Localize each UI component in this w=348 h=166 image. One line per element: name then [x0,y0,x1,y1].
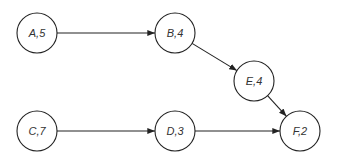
diagram-svg: A,5B,4E,4C,7D,3F,2 [0,0,348,166]
node-label: D,3 [166,125,184,137]
network-diagram: A,5B,4E,4C,7D,3F,2 [0,0,348,166]
node-b: B,4 [155,13,195,53]
edge-b-e [192,43,237,70]
node-label: B,4 [167,27,184,39]
node-label: F,2 [293,125,307,137]
node-a: A,5 [17,13,57,53]
edge-e-f [268,96,287,117]
nodes-group: A,5B,4E,4C,7D,3F,2 [17,13,320,151]
node-label: E,4 [246,75,263,87]
node-label: A,5 [28,27,46,39]
node-f: F,2 [280,111,320,151]
node-d: D,3 [155,111,195,151]
node-label: C,7 [28,125,46,137]
node-c: C,7 [17,111,57,151]
node-e: E,4 [234,61,274,101]
